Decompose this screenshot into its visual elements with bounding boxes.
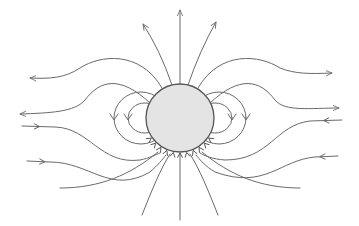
field-line-upper-left-out <box>30 58 162 88</box>
field-line-diagram <box>0 0 359 226</box>
inward-arrowhead-icon <box>151 143 156 148</box>
sphere-body <box>146 84 214 152</box>
field-line-bottom-right-in <box>196 155 338 178</box>
inward-arrowhead-icon <box>163 150 167 155</box>
field-line-lower-right-in <box>200 120 342 160</box>
inward-arrowhead-icon <box>199 147 203 152</box>
field-line-top-right <box>188 22 216 85</box>
inward-arrowhead-icon <box>204 143 209 148</box>
field-line-bottom-far-left <box>142 154 170 215</box>
inward-arrowhead-icon <box>170 152 175 157</box>
sphere <box>146 84 214 152</box>
inward-arrowhead-icon <box>185 152 190 157</box>
field-line-lower-mid-left <box>60 152 158 188</box>
field-line-upper-right-out <box>198 58 332 88</box>
field-line-mid-right-out <box>210 83 339 108</box>
field-line-lower-mid-right <box>202 152 300 188</box>
inward-arrowhead-icon <box>157 147 161 152</box>
diagram-canvas <box>0 0 359 226</box>
field-line-lower-left-in <box>22 126 160 160</box>
field-line-top-left <box>143 24 172 85</box>
